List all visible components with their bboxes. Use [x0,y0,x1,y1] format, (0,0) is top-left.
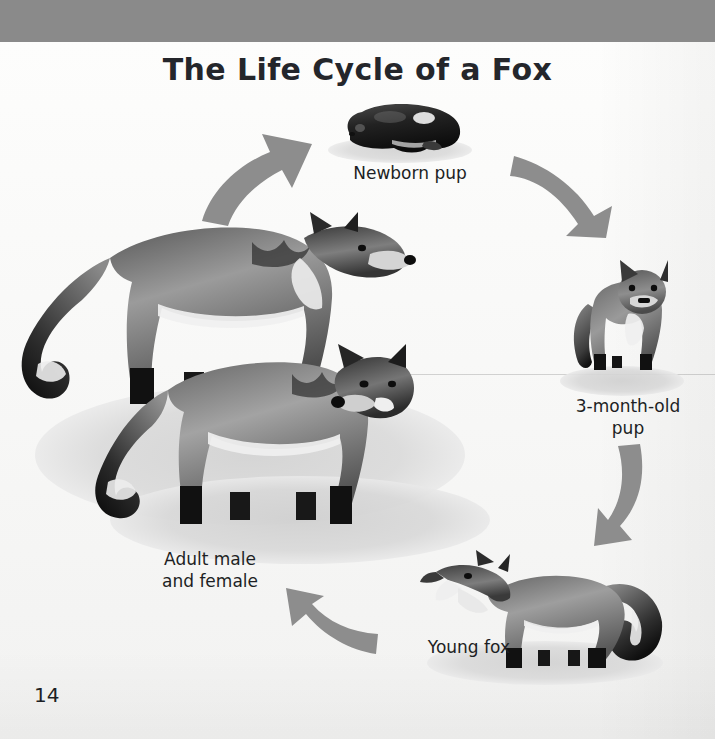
fox-life-cycle-page: The Life Cycle of a Fox [0,0,715,739]
caption-adult-male-and-female: Adult male and female [100,549,320,593]
caption-three-month-old-pup: 3-month-old pup [548,396,708,440]
caption-newborn-pup: Newborn pup [310,163,510,185]
arrow-newborn-to-three-month [510,134,630,242]
newborn-pup-illustration [332,98,472,160]
three-month-old-pup-illustration [568,258,686,388]
caption-young-fox: Young fox [330,637,510,659]
page-number: 14 [34,683,59,707]
arrow-three-month-to-young [578,442,668,552]
adult-fox-front-illustration [82,342,422,558]
